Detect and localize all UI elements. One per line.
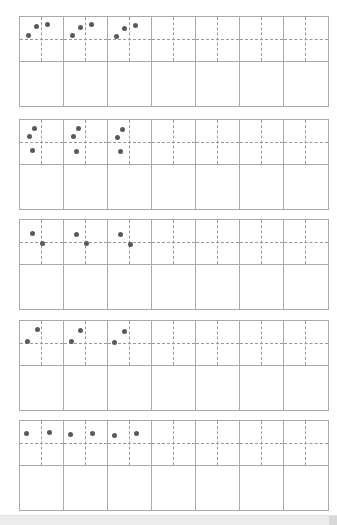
practice-cell [64,321,108,410]
practice-cell [108,321,152,410]
tian-grid-box [240,421,283,466]
stroke-dot-icon [118,232,123,237]
stroke-dot-icon [30,148,35,153]
dashed-guide-horizontal [284,242,328,243]
stroke-dot-icon [133,23,138,28]
writing-box [152,62,195,106]
practice-cell [152,321,196,410]
dashed-guide-vertical [217,120,218,164]
tian-grid-box [240,17,283,62]
tian-grid-box [108,220,151,265]
dashed-guide-vertical [85,120,86,164]
tian-grid-box [64,220,107,265]
writing-box [152,165,195,209]
stroke-dot-icon [25,339,30,344]
practice-cell [196,17,240,106]
tian-grid-box [240,120,283,165]
stroke-dot-icon [115,135,120,140]
practice-cell [152,120,196,209]
writing-box [196,62,239,106]
stroke-dot-icon [84,241,89,246]
stroke-dot-icon [112,433,117,438]
practice-cell [108,120,152,209]
dashed-guide-vertical [261,120,262,164]
dashed-guide-vertical [173,321,174,365]
dashed-guide-vertical [305,17,306,61]
writing-box [284,265,328,309]
practice-cell [152,421,196,510]
tian-grid-box [284,421,328,466]
writing-box [196,466,239,510]
writing-box [20,265,63,309]
writing-box [108,466,151,510]
practice-cell [20,321,64,410]
tian-grid-box [20,120,63,165]
writing-box [196,265,239,309]
practice-cell [284,120,328,209]
practice-cell [64,421,108,510]
tian-grid-box [152,17,195,62]
writing-box [64,165,107,209]
stroke-dot-icon [122,26,127,31]
writing-box [196,366,239,410]
practice-cell [152,17,196,106]
stroke-dot-icon [120,127,125,132]
stroke-dot-icon [112,340,117,345]
tian-grid-box [152,321,195,366]
writing-box [284,62,328,106]
practice-block-2 [19,119,329,210]
stroke-dot-icon [74,232,79,237]
writing-box [284,366,328,410]
dashed-guide-vertical [173,120,174,164]
dashed-guide-vertical [173,421,174,465]
practice-cell [240,120,284,209]
tian-grid-box [240,220,283,265]
stroke-dot-icon [45,22,50,27]
dashed-guide-vertical [261,421,262,465]
dashed-guide-vertical [217,17,218,61]
tian-grid-box [284,321,328,366]
practice-cell [240,321,284,410]
writing-box [64,265,107,309]
tian-grid-box [196,220,239,265]
stroke-dot-icon [69,339,74,344]
tian-grid-box [64,120,107,165]
stroke-dot-icon [70,33,75,38]
dashed-guide-vertical [305,220,306,264]
dashed-guide-vertical [217,321,218,365]
tian-grid-box [108,120,151,165]
practice-worksheet-page [0,0,337,515]
dashed-guide-vertical [41,17,42,61]
tian-grid-box [64,421,107,466]
tian-grid-box [64,17,107,62]
practice-cell [20,120,64,209]
stroke-dot-icon [32,126,37,131]
dashed-guide-horizontal [284,39,328,40]
practice-cell [108,220,152,309]
dashed-guide-vertical [41,321,42,365]
practice-cell [240,421,284,510]
practice-cell [20,220,64,309]
tian-grid-box [108,17,151,62]
dashed-guide-vertical [261,321,262,365]
writing-box [20,466,63,510]
writing-box [284,466,328,510]
stroke-dot-icon [74,149,79,154]
practice-cell [108,421,152,510]
tian-grid-box [64,321,107,366]
tian-grid-box [152,220,195,265]
dashed-guide-vertical [173,220,174,264]
tian-grid-box [20,321,63,366]
writing-box [240,466,283,510]
practice-cell [284,321,328,410]
horizontal-scrollbar[interactable] [0,515,337,525]
stroke-dot-icon [34,24,39,29]
writing-box [240,366,283,410]
stroke-dot-icon [47,430,52,435]
writing-box [20,165,63,209]
practice-cell [64,17,108,106]
stroke-dot-icon [76,126,81,131]
dashed-guide-vertical [85,321,86,365]
dashed-guide-vertical [85,17,86,61]
tian-grid-box [108,321,151,366]
